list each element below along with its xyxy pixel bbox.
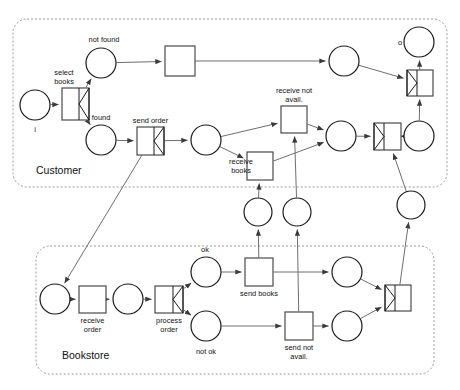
place-circle	[191, 311, 221, 341]
arc-t_select-to-p_notfound	[86, 79, 91, 88]
arc-t_sendnot-to-p_m2	[297, 230, 298, 312]
transition-box	[281, 106, 307, 133]
transition-label: receive	[81, 316, 105, 325]
transition-label: send books	[240, 289, 278, 298]
petri-net-diagram: Customer Bookstore inot foundfoundooknot…	[0, 0, 460, 390]
place-p_c5[interactable]	[326, 121, 356, 151]
transition-box	[165, 46, 195, 76]
transition-label: books	[231, 166, 251, 175]
transition-label: select	[54, 68, 73, 77]
place-circle	[329, 46, 359, 76]
arc-t_recvnot-to-p_c5	[308, 124, 324, 130]
place-circle	[283, 198, 311, 226]
place-p_b5[interactable]	[332, 311, 362, 341]
place-p_m2[interactable]	[283, 198, 311, 226]
transition-t_join1[interactable]	[374, 123, 401, 150]
place-label: not ok	[196, 347, 216, 356]
transition-box	[407, 70, 433, 96]
transition-box	[374, 123, 401, 150]
transition-label: receive not	[276, 86, 312, 95]
swimlane-customer-label: Customer	[36, 164, 82, 176]
transition-label: send order	[133, 116, 169, 125]
petri-net-canvas: Customer Bookstore inot foundfoundooknot…	[0, 0, 460, 390]
place-circle	[332, 311, 362, 341]
place-circle	[20, 90, 50, 120]
transition-label: order	[84, 325, 102, 334]
transition-label: order	[160, 325, 178, 334]
transition-label: process	[156, 316, 182, 325]
place-circle	[404, 27, 434, 57]
swimlane-bookstore-label: Bookstore	[62, 349, 109, 361]
place-p_found[interactable]: found	[86, 113, 116, 155]
transition-label: send not	[285, 343, 313, 352]
place-p_c4[interactable]	[329, 46, 359, 76]
place-label: found	[92, 113, 111, 122]
transition-label: receive	[229, 157, 253, 166]
place-circle	[244, 198, 272, 226]
place-p_m3[interactable]	[397, 191, 425, 219]
place-circle	[397, 191, 425, 219]
place-circle	[191, 125, 221, 155]
transition-box	[155, 286, 183, 313]
arc-t_select-to-p_found	[87, 121, 90, 125]
arc-t_sendbook-to-p_m1	[258, 230, 259, 258]
place-circle	[404, 121, 434, 151]
transition-box	[79, 286, 106, 313]
place-circle	[113, 284, 143, 314]
transition-box	[245, 258, 273, 286]
place-p_c3[interactable]	[191, 125, 221, 155]
place-p_notfound[interactable]: not found	[86, 35, 119, 78]
arc-p_c4-to-t_join2	[359, 65, 404, 78]
place-label: o	[398, 38, 402, 47]
place-p_b0[interactable]	[40, 284, 70, 314]
transition-box	[62, 88, 89, 120]
transition-t_bjoin[interactable]	[385, 285, 411, 311]
arc-p_b4-to-t_bjoin	[361, 279, 382, 290]
place-label: i	[34, 125, 36, 134]
arc-p_m3-to-t_join1	[393, 154, 406, 192]
transition-label: avail.	[290, 352, 307, 361]
arc-p_c3-to-t_recvnot	[221, 123, 277, 136]
place-circle	[332, 257, 362, 287]
transition-label: books	[54, 77, 74, 86]
transition-label: avail.	[285, 95, 302, 104]
transition-t_join2[interactable]	[407, 70, 433, 96]
place-p_notok[interactable]: not ok	[191, 311, 221, 356]
arc-t_procord-to-p_notok	[184, 310, 192, 315]
arc-t_procord-to-p_ok	[184, 283, 192, 289]
place-circle	[326, 121, 356, 151]
place-p_ok[interactable]: ok	[191, 245, 221, 287]
transition-t_select[interactable]: selectbooks	[54, 68, 89, 120]
transition-t_recvnot[interactable]: receive notavail.	[276, 86, 312, 133]
place-label: ok	[201, 245, 209, 254]
arc-p_notfound-to-t_t1	[117, 62, 162, 63]
transition-t_procord[interactable]: processorder	[155, 286, 183, 334]
transition-box	[137, 127, 164, 155]
place-circle	[40, 284, 70, 314]
transition-t_sendord[interactable]: send order	[133, 116, 169, 155]
place-label: not found	[89, 35, 120, 44]
transition-t_recvbook[interactable]: receivebooks	[229, 152, 273, 180]
place-p_m1[interactable]	[244, 198, 272, 226]
arc-p_m1-to-t_recvbook	[259, 184, 260, 198]
arc-p_b5-to-t_bjoin	[361, 307, 382, 318]
transition-t_recvord[interactable]: receiveorder	[79, 286, 106, 334]
place-p_b4[interactable]	[332, 257, 362, 287]
arc-t_bjoin-to-p_m3	[400, 222, 409, 284]
place-circle	[86, 48, 116, 78]
place-circle	[86, 125, 116, 155]
place-p_o[interactable]: o	[398, 27, 434, 57]
arc-t_recvbook-to-p_c5	[274, 142, 324, 161]
transition-box	[285, 312, 313, 340]
transition-box	[385, 285, 411, 311]
node-layer: inot foundfoundooknot okselectbookssend …	[20, 27, 434, 361]
transition-t_sendnot[interactable]: send notavail.	[285, 312, 313, 361]
place-p_c6[interactable]	[404, 121, 434, 151]
arc-p_m2-to-t_recvnot	[295, 137, 297, 198]
place-p_i[interactable]: i	[20, 90, 50, 134]
transition-t_sendbook[interactable]: send books	[240, 258, 278, 298]
place-p_b1[interactable]	[113, 284, 143, 314]
transition-t_t1[interactable]	[165, 46, 195, 76]
place-circle	[191, 257, 221, 287]
